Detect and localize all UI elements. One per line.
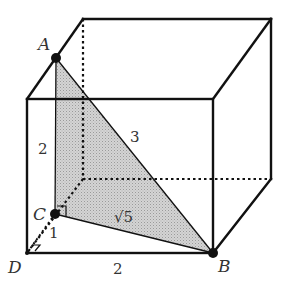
length-db: 2 xyxy=(113,260,123,278)
point-d xyxy=(25,251,29,255)
point-c xyxy=(50,209,60,219)
length-cb: √5 xyxy=(114,208,133,226)
point-b xyxy=(208,248,218,258)
edge-top-right-depth xyxy=(213,19,271,99)
cube-diagram: A C B D 2 3 √5 1 2 xyxy=(0,0,285,295)
label-c: C xyxy=(33,204,46,224)
point-a xyxy=(51,53,61,63)
label-d: D xyxy=(7,257,22,277)
length-ac: 2 xyxy=(38,140,48,158)
length-cd: 1 xyxy=(49,224,59,242)
length-ab: 3 xyxy=(130,128,140,146)
edge-bottom-right-depth xyxy=(213,179,271,253)
right-angle-d xyxy=(33,245,40,251)
label-b: B xyxy=(217,256,231,276)
label-a: A xyxy=(36,34,50,54)
